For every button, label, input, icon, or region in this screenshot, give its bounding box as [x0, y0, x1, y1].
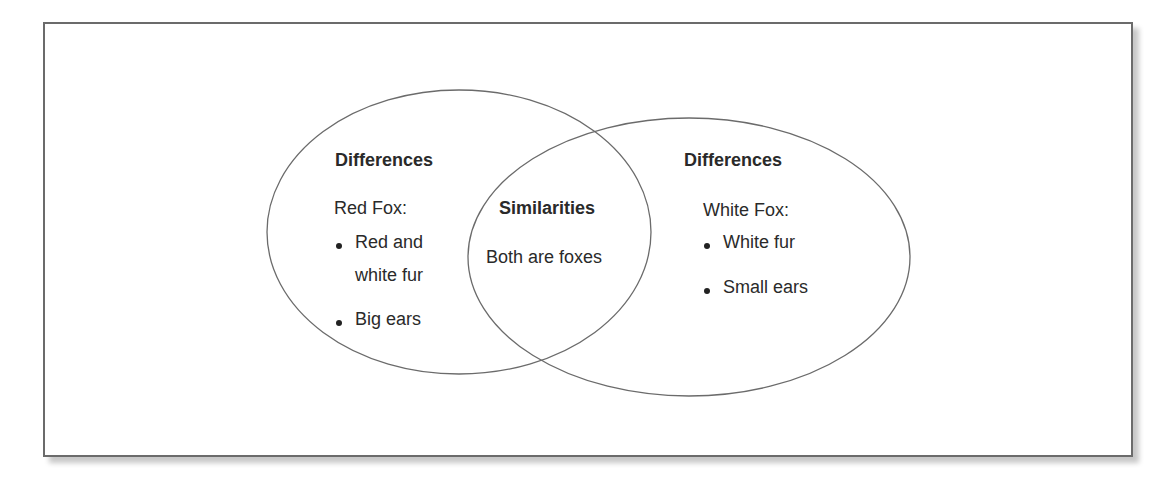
- left-circle: [267, 90, 651, 374]
- left-subject: Red Fox:: [334, 198, 407, 219]
- left-item-1: Red and: [355, 232, 423, 253]
- bullet-icon: [704, 288, 710, 294]
- bullet-icon: [336, 243, 342, 249]
- right-heading: Differences: [684, 150, 782, 171]
- overlap-heading: Similarities: [499, 198, 595, 219]
- left-item-2: Big ears: [355, 309, 421, 330]
- right-item-2: Small ears: [723, 277, 808, 298]
- bullet-icon: [336, 320, 342, 326]
- left-item-1-cont: white fur: [355, 265, 423, 286]
- right-item-1: White fur: [723, 232, 795, 253]
- overlap-text: Both are foxes: [486, 247, 602, 268]
- right-subject: White Fox:: [703, 200, 789, 221]
- left-heading: Differences: [335, 150, 433, 171]
- venn-diagram: [0, 0, 1175, 486]
- bullet-icon: [704, 243, 710, 249]
